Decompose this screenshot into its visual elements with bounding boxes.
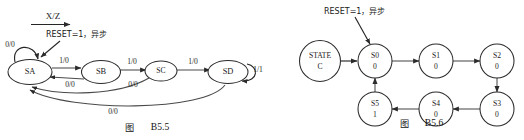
reset-pointer-arrow-left: [41, 41, 60, 57]
state-node-sa[interactable]: SA: [8, 60, 52, 85]
transition-sb-sc-label: 1/0: [127, 57, 137, 66]
state-node-sc[interactable]: SC: [145, 61, 177, 81]
state-node-s1-name: S1: [432, 51, 440, 60]
state-node-s3-output: 0: [495, 110, 499, 119]
state-node-sd[interactable]: SD: [208, 61, 248, 84]
caption-b5-5: 图 B5.5: [125, 121, 170, 132]
transition-sc-sd-label: 1/0: [188, 57, 198, 66]
diagram-canvas: X/Z RESET=1，异步 0/0 1/0 0/0: [0, 0, 524, 140]
transition-sc-sd: 1/0: [177, 57, 210, 70]
caption-b5-6: 图 B5.6: [400, 117, 444, 128]
state-node-state-c-output: C: [317, 62, 322, 71]
legend-label-text: X/Z: [46, 11, 61, 21]
transition-sa-sb-label: 1/0: [59, 56, 69, 65]
state-node-sd-label: SD: [223, 67, 234, 76]
transition-sd-sa-label: 0/0: [108, 107, 118, 116]
state-node-s0-name: S0: [371, 51, 379, 60]
figure-b5-5: X/Z RESET=1，异步 0/0 1/0 0/0: [5, 11, 263, 132]
state-node-s5[interactable]: S5 1: [358, 92, 392, 126]
state-node-s5-output: 1: [373, 110, 377, 119]
caption-b5-5-cjk: 图: [125, 122, 134, 133]
state-node-s3[interactable]: S3 0: [480, 92, 514, 126]
transition-sd-sa: 0/0: [30, 85, 225, 116]
state-node-state-c-name: STATE: [309, 51, 332, 60]
transition-sa-sb: 1/0: [52, 56, 81, 68]
state-node-sc-label: SC: [156, 66, 165, 75]
state-node-s5-name: S5: [371, 99, 379, 108]
transition-sa-sa: 0/0: [5, 40, 38, 62]
reset-annotation-right: RESET=1，异步: [324, 7, 385, 45]
transition-sa-sa-label: 0/0: [5, 40, 15, 49]
state-node-sb-label: SB: [96, 67, 107, 76]
state-node-state-c[interactable]: STATE C: [300, 41, 341, 82]
transition-sb-sa-label: 0/0: [65, 80, 75, 89]
state-node-s4-name: S4: [432, 99, 440, 108]
reset-annotation-left: RESET=1，异步: [41, 30, 107, 58]
state-node-sa-label: SA: [25, 67, 36, 76]
state-node-s3-name: S3: [493, 99, 501, 108]
state-node-sb[interactable]: SB: [82, 61, 121, 84]
figure-sheet: X/Z RESET=1，异步 0/0 1/0 0/0: [0, 0, 524, 140]
reset-annotation-left-text: RESET=1，异步: [46, 30, 107, 39]
state-node-s1-output: 0: [434, 62, 438, 71]
transition-sb-sc: 1/0: [120, 57, 146, 70]
transition-sb-sa: 0/0: [50, 77, 84, 89]
reset-pointer-arrow-right: [355, 17, 370, 44]
state-node-s1[interactable]: S1 0: [419, 44, 453, 78]
state-node-s2[interactable]: S2 0: [480, 44, 514, 78]
figure-b5-6: RESET=1，异步: [300, 7, 515, 129]
caption-b5-5-label: B5.5: [151, 121, 170, 132]
caption-b5-6-label: B5.6: [425, 117, 444, 128]
transition-sb-sa-path: [50, 77, 84, 79]
state-node-s2-name: S2: [493, 51, 501, 60]
state-node-s2-output: 0: [495, 62, 499, 71]
state-node-s0-output: 0: [373, 62, 377, 71]
legend-x-z: X/Z: [31, 11, 70, 24]
state-node-s0[interactable]: S0 0: [358, 44, 392, 78]
reset-annotation-right-text: RESET=1，异步: [324, 7, 385, 16]
transition-sc-sa-label: 0/0: [128, 80, 138, 89]
caption-b5-6-cjk: 图: [400, 118, 409, 129]
transition-sd-sd-label: 1/1: [253, 65, 263, 74]
